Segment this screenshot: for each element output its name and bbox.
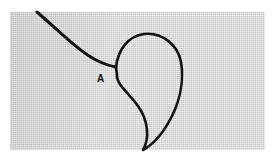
thread-loop xyxy=(116,34,182,150)
point-label-a: A xyxy=(97,73,104,84)
thread-loop-illustration xyxy=(0,0,273,155)
thread-tail xyxy=(37,12,116,67)
